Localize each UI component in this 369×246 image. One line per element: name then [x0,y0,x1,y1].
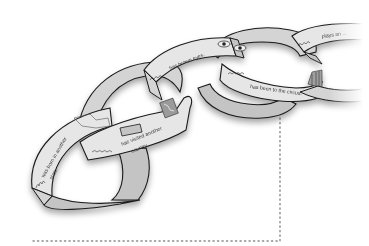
chain-link-4: has been to the circus. [220,64,322,101]
chain-link-3: has brown eyes. [144,38,246,100]
circus-tent-drawing [308,70,322,88]
paper-chain-diagram: was born in another state. has visited a… [0,0,369,246]
